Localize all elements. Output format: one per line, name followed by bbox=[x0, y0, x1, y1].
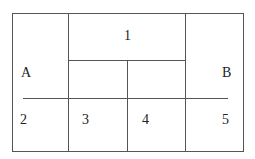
label-1: 1 bbox=[124, 29, 131, 43]
label-a: A bbox=[21, 66, 31, 80]
label-b: B bbox=[222, 66, 231, 80]
grid-diagram bbox=[0, 0, 255, 159]
label-5: 5 bbox=[222, 113, 229, 127]
label-2: 2 bbox=[20, 113, 27, 127]
label-4: 4 bbox=[142, 113, 149, 127]
label-3: 3 bbox=[82, 113, 89, 127]
